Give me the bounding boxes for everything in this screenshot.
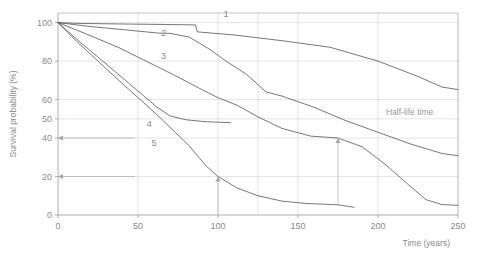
- y-tick-label-60: 60: [42, 95, 52, 105]
- curve-label-3: 3: [161, 51, 166, 61]
- x-tick-label-0: 0: [55, 221, 60, 231]
- y-axis-title: Survival probability (%): [8, 70, 18, 157]
- y-axis-ticks: 02040506080100: [37, 18, 58, 220]
- annotation-half-life-time: Half-life time: [386, 107, 434, 117]
- x-tick-label-100: 100: [210, 221, 225, 231]
- x-tick-label-250: 250: [450, 221, 465, 231]
- y-tick-label-50: 50: [42, 114, 52, 124]
- x-tick-label-150: 150: [290, 221, 305, 231]
- x-axis-title: Time (years): [403, 238, 451, 248]
- y-tick-label-20: 20: [42, 172, 52, 182]
- y-tick-label-100: 100: [37, 18, 52, 28]
- y-tick-label-40: 40: [42, 133, 52, 143]
- curve-4: [58, 23, 231, 123]
- x-tick-label-200: 200: [370, 221, 385, 231]
- annotation-arrow-left-at-40-head: [58, 135, 63, 140]
- chart-canvas: 02040506080100 050100150200250 12345 Hal…: [0, 0, 482, 256]
- curve-number-labels: 12345: [147, 9, 229, 148]
- survival-probability-chart: 02040506080100 050100150200250 12345 Hal…: [0, 0, 482, 256]
- annotation-arrow-left-at-20-head: [58, 174, 63, 179]
- y-tick-label-0: 0: [47, 210, 52, 220]
- chart-annotations: Half-life time: [58, 107, 434, 215]
- x-axis-ticks: 050100150200250: [55, 215, 465, 231]
- y-tick-label-80: 80: [42, 56, 52, 66]
- x-tick-label-50: 50: [133, 221, 143, 231]
- curve-label-4: 4: [147, 119, 152, 129]
- curve-label-2: 2: [161, 28, 166, 38]
- curve-label-5: 5: [151, 138, 156, 148]
- curve-5: [58, 23, 354, 208]
- curve-label-1: 1: [223, 9, 228, 19]
